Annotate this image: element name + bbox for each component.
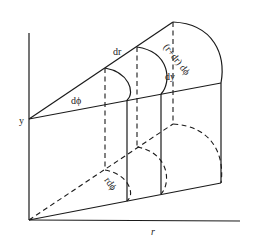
y-axis-label: y [19,115,24,126]
dr-label: dr [113,46,122,57]
r-axis-label: r [151,226,155,237]
diagram-canvas: y r dr dϕ dy (r+dr) dϕ rdϕ [0,0,257,246]
inner-arc-label: rdϕ [102,175,119,192]
bottom-lower-radial-line [29,183,221,220]
outer-top-arc [173,22,222,83]
middle-top-arc [137,47,167,94]
volume-element-diagram: y r dr dϕ dy (r+dr) dϕ rdϕ [0,0,257,246]
middle-bottom-arc [137,147,167,194]
r-axis [29,220,240,221]
dy-label: dy [165,71,175,82]
upper-radial-line [29,22,173,119]
dphi-label: dϕ [71,95,81,106]
inner-top-arc [105,68,131,100]
outer-bottom-arc [173,124,222,183]
lower-radial-line [29,83,221,119]
